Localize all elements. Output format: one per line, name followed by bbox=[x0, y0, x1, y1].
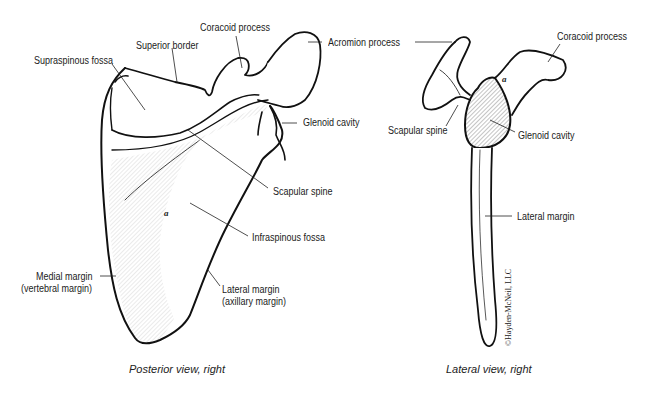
label-supraspinous-fossa: Supraspinous fossa bbox=[34, 55, 113, 66]
caption-posterior-view: Posterior view, right bbox=[129, 363, 225, 375]
label-scapular-spine-lateral: Scapular spine bbox=[388, 125, 448, 136]
label-glenoid-cavity-posterior: Glenoid cavity bbox=[303, 117, 360, 128]
copyright-notice: ©Hayden-McNeil, LLC bbox=[504, 269, 513, 346]
label-glenoid-cavity-lateral: Glenoid cavity bbox=[518, 130, 575, 141]
label-acromion-process: Acromion process bbox=[328, 37, 400, 48]
marker-a-lateral: a bbox=[502, 74, 507, 84]
label-coracoid-process-lateral: Coracoid process bbox=[557, 31, 627, 42]
label-lateral-margin-posterior: Lateral margin bbox=[222, 284, 280, 295]
label-scapular-spine-posterior: Scapular spine bbox=[273, 186, 333, 197]
marker-a-posterior: a bbox=[164, 208, 169, 218]
label-superior-border: Superior border bbox=[136, 40, 199, 51]
label-lateral-margin-lateral: Lateral margin bbox=[517, 211, 575, 222]
label-infraspinous-fossa: Infraspinous fossa bbox=[252, 232, 325, 243]
label-vertebral-margin: (vertebral margin) bbox=[21, 283, 92, 294]
label-axillary-margin: (axillary margin) bbox=[222, 296, 286, 307]
label-coracoid-process-posterior: Coracoid process bbox=[200, 22, 270, 33]
lateral-scapula bbox=[423, 37, 566, 346]
label-medial-margin: Medial margin bbox=[36, 271, 93, 282]
caption-lateral-view: Lateral view, right bbox=[446, 363, 532, 375]
